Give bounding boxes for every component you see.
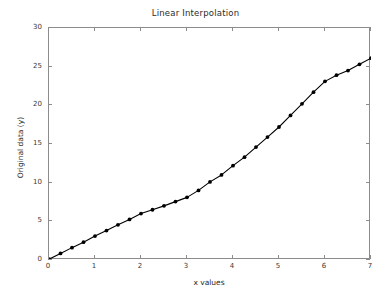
y-tick-mark xyxy=(366,220,370,221)
data-point xyxy=(266,135,270,139)
data-point xyxy=(335,73,339,77)
y-tick-label: 25 xyxy=(33,62,42,70)
data-point xyxy=(254,145,258,149)
x-tick-label: 2 xyxy=(138,262,142,270)
y-tick-label: 0 xyxy=(38,255,42,263)
x-tick-label: 1 xyxy=(92,262,96,270)
data-point xyxy=(82,240,86,244)
data-point xyxy=(346,69,350,73)
x-tick-label: 4 xyxy=(230,262,234,270)
x-axis-label: x values xyxy=(48,278,370,287)
y-tick-mark xyxy=(366,66,370,67)
y-tick-mark xyxy=(366,143,370,144)
y-tick-mark xyxy=(366,259,370,260)
x-tick-mark xyxy=(186,27,187,31)
x-tick-label: 3 xyxy=(184,262,188,270)
y-tick-mark xyxy=(48,182,52,183)
y-tick-label: 20 xyxy=(33,100,42,108)
data-point xyxy=(220,173,224,177)
y-tick-label: 5 xyxy=(38,216,42,224)
data-point xyxy=(128,218,132,222)
x-tick-mark xyxy=(140,27,141,31)
plot-area xyxy=(48,27,370,259)
x-tick-mark xyxy=(278,27,279,31)
x-tick-mark xyxy=(140,255,141,259)
data-point xyxy=(277,125,281,129)
x-tick-mark xyxy=(324,27,325,31)
data-point xyxy=(116,223,120,227)
x-tick-mark xyxy=(94,255,95,259)
x-tick-label: 0 xyxy=(46,262,50,270)
data-point xyxy=(93,234,97,238)
data-point xyxy=(70,246,74,250)
x-tick-label: 5 xyxy=(276,262,280,270)
data-point xyxy=(243,155,247,159)
y-tick-mark xyxy=(48,143,52,144)
data-point xyxy=(151,208,155,212)
data-point xyxy=(197,189,201,193)
y-tick-mark xyxy=(48,220,52,221)
data-point xyxy=(162,204,166,208)
data-point xyxy=(208,180,212,184)
chart-figure: Linear Interpolation 01234567 0510152025… xyxy=(0,0,391,299)
x-tick-mark xyxy=(232,255,233,259)
y-tick-label: 30 xyxy=(33,23,42,31)
y-tick-mark xyxy=(48,259,52,260)
x-tick-mark xyxy=(94,27,95,31)
data-point xyxy=(59,252,63,256)
data-point xyxy=(289,113,293,117)
y-axis-label: Original data (y) xyxy=(16,88,25,208)
y-tick-label: 10 xyxy=(33,178,42,186)
x-tick-mark xyxy=(370,27,371,31)
y-tick-mark xyxy=(48,27,52,28)
y-tick-label: 15 xyxy=(33,139,42,147)
y-tick-mark xyxy=(366,27,370,28)
x-tick-label: 6 xyxy=(322,262,326,270)
y-tick-mark xyxy=(48,104,52,105)
data-point xyxy=(300,102,304,106)
data-point xyxy=(185,195,189,199)
y-tick-mark xyxy=(366,104,370,105)
data-series-svg xyxy=(49,28,371,260)
x-tick-mark xyxy=(324,255,325,259)
x-tick-mark xyxy=(278,255,279,259)
x-tick-mark xyxy=(186,255,187,259)
data-point xyxy=(105,229,109,233)
series-markers xyxy=(49,56,371,260)
data-point xyxy=(174,200,178,204)
x-tick-mark xyxy=(232,27,233,31)
data-point xyxy=(139,212,143,216)
data-point xyxy=(312,90,316,94)
data-point xyxy=(358,62,362,66)
chart-title: Linear Interpolation xyxy=(0,8,391,18)
y-tick-mark xyxy=(366,182,370,183)
series-line xyxy=(49,58,371,259)
data-point xyxy=(323,79,327,83)
x-tick-label: 7 xyxy=(368,262,372,270)
y-tick-mark xyxy=(48,66,52,67)
x-tick-mark xyxy=(370,255,371,259)
data-point xyxy=(231,164,235,168)
